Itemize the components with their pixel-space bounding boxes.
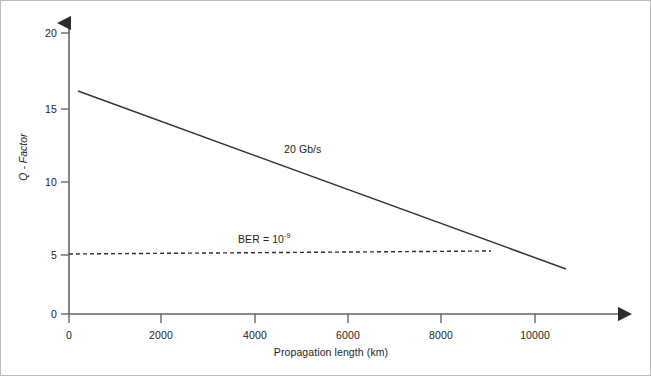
y-axis-title: Q - Factor — [17, 117, 29, 197]
y-tick-label-10: 10 — [27, 176, 57, 188]
x-tick-label-4000: 4000 — [225, 329, 285, 341]
series-line-ber-threshold — [69, 251, 491, 254]
y-tick-label-20: 20 — [27, 27, 57, 39]
x-tick-label-10000: 10000 — [505, 329, 565, 341]
annotation-ber-exponent: -9 — [284, 232, 290, 239]
y-tick-label-5: 5 — [27, 249, 57, 261]
annotation-ber-threshold: BER = 10-9 — [238, 232, 290, 245]
figure-container: 0 5 10 15 20 0 2000 4000 6000 8000 10000… — [0, 0, 651, 376]
x-axis-title: Propagation length (km) — [181, 346, 481, 358]
y-axis-title-text: Q - Factor — [17, 133, 29, 180]
y-axis-ticks — [61, 33, 69, 314]
y-tick-label-15: 15 — [27, 103, 57, 115]
x-tick-label-6000: 6000 — [318, 329, 378, 341]
chart-canvas — [1, 1, 651, 376]
annotation-ber-prefix: BER = 10 — [238, 233, 284, 245]
x-axis-ticks — [69, 314, 535, 323]
y-tick-label-0: 0 — [27, 308, 57, 320]
x-tick-label-0: 0 — [39, 329, 99, 341]
series-line-20gbs — [78, 91, 566, 269]
x-tick-label-8000: 8000 — [411, 329, 471, 341]
x-tick-label-2000: 2000 — [131, 329, 191, 341]
annotation-20gbs: 20 Gb/s — [284, 143, 321, 155]
